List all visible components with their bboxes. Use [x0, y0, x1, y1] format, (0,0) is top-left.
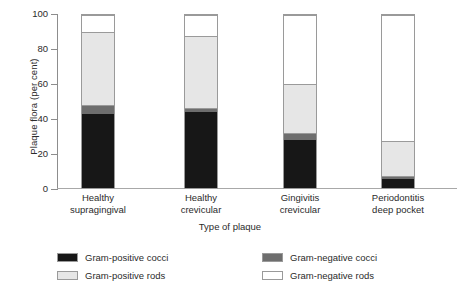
legend-swatch-icon	[57, 253, 78, 262]
bar-gingivitis-crevicular[interactable]	[283, 14, 317, 189]
bar-segment-gram-negative-cocci	[284, 133, 316, 140]
y-axis-tick-label: 80	[37, 43, 48, 54]
bar-segment-gram-negative-rods	[82, 15, 114, 32]
legend-item-gram-positive-rods[interactable]: Gram-positive rods	[57, 270, 165, 281]
legend-item-gram-negative-cocci[interactable]: Gram-negative cocci	[262, 252, 377, 263]
x-axis-label: Healthysupragingival	[38, 192, 158, 215]
y-axis-tick: 0	[51, 189, 58, 190]
x-axis-label-line: deep pocket	[338, 204, 458, 216]
x-axis-title: Type of plaque	[0, 221, 460, 232]
legend-item-gram-negative-rods[interactable]: Gram-negative rods	[262, 270, 374, 281]
legend-swatch-icon	[262, 271, 283, 280]
bar-segment-gram-positive-cocci	[284, 140, 316, 188]
y-axis-tick-label: 60	[37, 78, 48, 89]
bar-segment-gram-positive-rods	[185, 36, 217, 108]
bar-segment-gram-positive-cocci	[185, 112, 217, 188]
bar-segment-gram-negative-rods	[284, 15, 316, 84]
legend-swatch-icon	[57, 271, 78, 280]
x-axis-label: Periodontitisdeep pocket	[338, 192, 458, 215]
legend-label: Gram-positive cocci	[85, 252, 168, 263]
y-axis-tick-label: 40	[37, 113, 48, 124]
legend-swatch-icon	[262, 253, 283, 262]
bar-segment-gram-negative-rods	[185, 15, 217, 36]
chart-legend: Gram-positive cocciGram-negative cocciGr…	[57, 252, 437, 286]
legend-label: Gram-negative cocci	[290, 252, 377, 263]
bar-segment-gram-positive-rods	[382, 141, 414, 176]
bar-segment-gram-positive-rods	[284, 84, 316, 132]
x-axis-label-line: Healthy	[38, 192, 158, 204]
stacked-bar-chart: Plaque flora (per cent) 020406080100 Hea…	[0, 0, 460, 294]
legend-label: Gram-positive rods	[85, 270, 165, 281]
bar-segment-gram-positive-rods	[82, 32, 114, 105]
bar-healthy-crevicular[interactable]	[184, 14, 218, 189]
x-axis-label-line: supragingival	[38, 204, 158, 216]
x-axis-label-line: Periodontitis	[338, 192, 458, 204]
bar-healthy-supragingival[interactable]	[81, 14, 115, 189]
bar-segment-gram-negative-cocci	[82, 105, 114, 114]
y-axis-tick-label: 100	[32, 8, 48, 19]
bar-segment-gram-negative-rods	[382, 15, 414, 141]
y-axis-tick-label: 20	[37, 148, 48, 159]
legend-item-gram-positive-cocci[interactable]: Gram-positive cocci	[57, 252, 168, 263]
plot-area	[57, 14, 457, 189]
bar-periodontitis-deep-pocket[interactable]	[381, 14, 415, 189]
legend-label: Gram-negative rods	[290, 270, 374, 281]
bar-segment-gram-positive-cocci	[82, 114, 114, 188]
bar-segment-gram-positive-cocci	[382, 179, 414, 188]
